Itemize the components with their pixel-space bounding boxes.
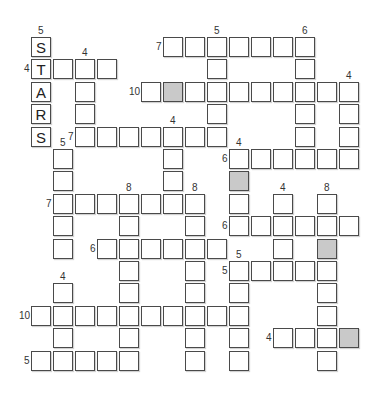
crossword-cell[interactable]	[53, 149, 73, 169]
crossword-cell[interactable]	[317, 283, 337, 303]
crossword-cell[interactable]	[75, 104, 95, 124]
crossword-cell[interactable]	[119, 306, 139, 326]
crossword-cell[interactable]	[119, 328, 139, 348]
crossword-cell[interactable]	[339, 82, 359, 102]
crossword-cell[interactable]	[185, 194, 205, 214]
crossword-cell[interactable]	[97, 127, 117, 147]
crossword-cell[interactable]	[295, 104, 315, 124]
crossword-cell[interactable]	[53, 239, 73, 259]
crossword-cell[interactable]	[273, 194, 293, 214]
crossword-cell[interactable]: A	[31, 82, 51, 102]
crossword-cell[interactable]	[141, 239, 161, 259]
crossword-cell[interactable]	[295, 216, 315, 236]
crossword-cell[interactable]	[53, 351, 73, 371]
crossword-cell[interactable]: S	[31, 127, 51, 147]
crossword-cell[interactable]	[119, 127, 139, 147]
crossword-cell[interactable]	[273, 239, 293, 259]
crossword-cell[interactable]	[75, 59, 95, 79]
crossword-cell-shaded[interactable]	[339, 328, 359, 348]
crossword-cell[interactable]	[185, 351, 205, 371]
crossword-cell[interactable]	[141, 82, 161, 102]
crossword-cell[interactable]	[163, 194, 183, 214]
crossword-cell[interactable]	[163, 37, 183, 57]
crossword-cell[interactable]	[317, 328, 337, 348]
crossword-cell[interactable]	[273, 82, 293, 102]
crossword-cell[interactable]	[163, 239, 183, 259]
crossword-cell[interactable]	[53, 283, 73, 303]
crossword-cell[interactable]	[317, 306, 337, 326]
crossword-cell[interactable]	[119, 351, 139, 371]
crossword-cell[interactable]	[141, 306, 161, 326]
crossword-cell[interactable]	[317, 216, 337, 236]
crossword-cell[interactable]	[97, 59, 117, 79]
crossword-cell[interactable]	[185, 216, 205, 236]
crossword-cell[interactable]	[75, 127, 95, 147]
crossword-cell[interactable]	[119, 261, 139, 281]
crossword-cell[interactable]	[229, 37, 249, 57]
crossword-cell[interactable]	[163, 171, 183, 191]
crossword-cell[interactable]	[317, 82, 337, 102]
crossword-cell[interactable]	[185, 37, 205, 57]
crossword-cell-shaded[interactable]	[229, 171, 249, 191]
crossword-cell[interactable]	[273, 149, 293, 169]
crossword-cell[interactable]	[317, 194, 337, 214]
crossword-cell[interactable]	[295, 328, 315, 348]
crossword-cell[interactable]	[185, 306, 205, 326]
crossword-cell[interactable]	[251, 216, 271, 236]
crossword-cell[interactable]	[31, 351, 51, 371]
crossword-cell[interactable]	[207, 127, 227, 147]
crossword-cell[interactable]	[317, 351, 337, 371]
crossword-cell[interactable]	[185, 239, 205, 259]
crossword-cell[interactable]	[273, 261, 293, 281]
crossword-cell[interactable]	[75, 82, 95, 102]
crossword-cell[interactable]	[163, 149, 183, 169]
crossword-cell[interactable]	[295, 59, 315, 79]
crossword-cell[interactable]	[339, 127, 359, 147]
crossword-cell[interactable]	[163, 127, 183, 147]
crossword-cell[interactable]	[119, 239, 139, 259]
crossword-cell[interactable]	[251, 82, 271, 102]
crossword-cell[interactable]	[207, 59, 227, 79]
crossword-cell[interactable]	[53, 194, 73, 214]
crossword-cell[interactable]	[339, 149, 359, 169]
crossword-cell[interactable]	[229, 194, 249, 214]
crossword-cell[interactable]	[229, 216, 249, 236]
crossword-cell[interactable]	[97, 194, 117, 214]
crossword-cell[interactable]	[53, 306, 73, 326]
crossword-cell[interactable]	[53, 328, 73, 348]
crossword-cell[interactable]	[251, 149, 271, 169]
crossword-cell[interactable]	[229, 328, 249, 348]
crossword-cell[interactable]	[317, 261, 337, 281]
crossword-cell[interactable]	[185, 328, 205, 348]
crossword-cell[interactable]	[339, 104, 359, 124]
crossword-cell[interactable]	[339, 216, 359, 236]
crossword-cell[interactable]	[185, 261, 205, 281]
crossword-cell[interactable]	[163, 306, 183, 326]
crossword-cell[interactable]	[273, 328, 293, 348]
crossword-cell[interactable]	[207, 239, 227, 259]
crossword-cell[interactable]	[31, 306, 51, 326]
crossword-cell[interactable]	[141, 194, 161, 214]
crossword-cell[interactable]	[273, 216, 293, 236]
crossword-cell[interactable]: S	[31, 37, 51, 57]
crossword-cell[interactable]	[119, 194, 139, 214]
crossword-cell[interactable]: T	[31, 59, 51, 79]
crossword-cell[interactable]	[295, 82, 315, 102]
crossword-cell[interactable]	[53, 216, 73, 236]
crossword-cell[interactable]	[207, 82, 227, 102]
crossword-cell[interactable]: R	[31, 104, 51, 124]
crossword-cell-shaded[interactable]	[317, 239, 337, 259]
crossword-cell[interactable]	[207, 306, 227, 326]
crossword-cell[interactable]	[53, 171, 73, 191]
crossword-cell[interactable]	[229, 149, 249, 169]
crossword-cell[interactable]	[207, 37, 227, 57]
crossword-cell[interactable]	[97, 239, 117, 259]
crossword-cell[interactable]	[229, 283, 249, 303]
crossword-cell[interactable]	[295, 149, 315, 169]
crossword-cell[interactable]	[295, 127, 315, 147]
crossword-cell[interactable]	[251, 261, 271, 281]
crossword-cell[interactable]	[141, 127, 161, 147]
crossword-cell[interactable]	[97, 306, 117, 326]
crossword-cell[interactable]	[295, 37, 315, 57]
crossword-cell[interactable]	[53, 59, 73, 79]
